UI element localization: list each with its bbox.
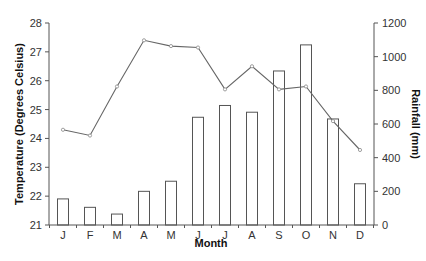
right-tick-label: 1200 — [382, 17, 406, 29]
axes — [49, 23, 374, 225]
left-y-axis-title: Temperature (Degrees Celsius) — [13, 43, 25, 205]
left-tick-label: 26 — [30, 75, 42, 87]
right-tick-label: 0 — [382, 219, 388, 231]
rainfall-bar — [85, 207, 96, 225]
temperature-marker — [250, 65, 253, 68]
x-tick-label: A — [248, 229, 256, 241]
x-tick-label: A — [140, 229, 148, 241]
temperature-marker — [196, 46, 199, 49]
right-y-ticks: 020040060080010001200 — [374, 17, 406, 231]
left-tick-label: 21 — [30, 219, 42, 231]
left-tick-label: 25 — [30, 104, 42, 116]
rainfall-bar — [355, 184, 366, 225]
x-axis-title: Month — [195, 237, 228, 249]
rainfall-bars — [58, 45, 366, 225]
x-tick-label: M — [166, 229, 175, 241]
right-tick-label: 400 — [382, 152, 400, 164]
right-tick-label: 200 — [382, 185, 400, 197]
left-tick-label: 24 — [30, 132, 42, 144]
temperature-marker — [142, 39, 145, 42]
temperature-polyline — [63, 40, 360, 150]
x-tick-label: F — [87, 229, 94, 241]
rainfall-bar — [274, 71, 285, 225]
right-y-axis-title: Rainfall (mm) — [410, 89, 422, 159]
temperature-marker — [358, 148, 361, 151]
x-tick-label: O — [302, 229, 311, 241]
temperature-line — [61, 39, 361, 152]
left-tick-label: 28 — [30, 17, 42, 29]
rainfall-bar — [193, 117, 204, 225]
rainfall-bar — [247, 112, 258, 225]
temperature-marker — [331, 120, 334, 123]
climate-chart: 2122232425262728 020040060080010001200 J… — [0, 0, 426, 261]
left-tick-label: 23 — [30, 161, 42, 173]
right-tick-label: 800 — [382, 84, 400, 96]
left-y-ticks: 2122232425262728 — [30, 17, 49, 231]
rainfall-bar — [112, 214, 123, 225]
rainfall-bar — [139, 191, 150, 225]
temperature-marker — [88, 134, 91, 137]
temperature-marker — [223, 88, 226, 91]
x-tick-label: S — [275, 229, 282, 241]
x-tick-label: M — [112, 229, 121, 241]
temperature-marker — [115, 85, 118, 88]
rainfall-bar — [58, 199, 69, 225]
rainfall-bar — [301, 45, 312, 225]
rainfall-bar — [220, 105, 231, 225]
left-tick-label: 27 — [30, 46, 42, 58]
temperature-marker — [169, 44, 172, 47]
rainfall-bar — [166, 181, 177, 225]
left-tick-label: 22 — [30, 190, 42, 202]
x-tick-label: J — [60, 229, 66, 241]
right-tick-label: 600 — [382, 118, 400, 130]
x-tick-label: N — [329, 229, 337, 241]
temperature-marker — [304, 85, 307, 88]
temperature-marker — [277, 88, 280, 91]
temperature-marker — [61, 128, 64, 131]
rainfall-bar — [328, 119, 339, 225]
right-tick-label: 1000 — [382, 51, 406, 63]
x-tick-label: D — [356, 229, 364, 241]
